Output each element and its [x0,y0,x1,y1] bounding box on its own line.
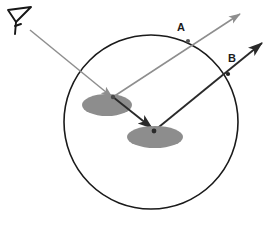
ray-a-label: A [177,21,185,33]
crossing-marker-b [226,72,230,76]
scattering-diagram: A B [0,0,266,225]
scatter-point-1 [111,95,115,99]
diagram-canvas: A B [0,0,266,225]
observer-eye-icon [8,7,31,34]
scatter-point-2 [152,129,157,134]
ray-b-label: B [228,52,236,64]
crossing-marker-a [186,39,190,43]
medium-boundary-circle [64,35,238,209]
